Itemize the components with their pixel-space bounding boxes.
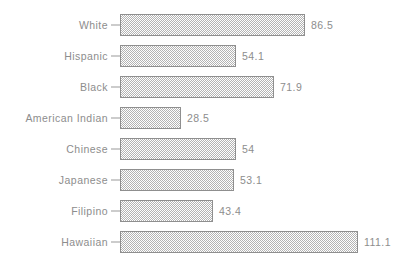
- category-label: Japanese: [59, 174, 108, 185]
- bar-value-label: 111.1: [364, 236, 391, 247]
- axis-tick: [111, 86, 120, 87]
- bar: [120, 231, 358, 253]
- bar: [120, 45, 236, 67]
- category-label: Chinese: [66, 143, 108, 154]
- axis-tick: [111, 241, 120, 242]
- bar-row: Chinese54: [0, 133, 404, 164]
- axis-tick: [111, 148, 120, 149]
- category-label: American Indian: [25, 112, 108, 123]
- axis-tick: [111, 179, 120, 180]
- bar: [120, 107, 181, 129]
- bar-row: Black71.9: [0, 71, 404, 102]
- bar-value-label: 53.1: [240, 174, 262, 185]
- category-label: Hispanic: [64, 50, 108, 61]
- category-label: Hawaiian: [61, 236, 108, 247]
- bar-row: Hawaiian111.1: [0, 226, 404, 257]
- category-label: White: [79, 19, 108, 30]
- bar-row: White86.5: [0, 9, 404, 40]
- bar-row: Filipino43.4: [0, 195, 404, 226]
- bar: [120, 14, 305, 36]
- axis-tick: [111, 117, 120, 118]
- axis-tick: [111, 55, 120, 56]
- bar-value-label: 54: [242, 143, 255, 154]
- plot-area: White86.5Hispanic54.1Black71.9American I…: [0, 0, 404, 271]
- bar: [120, 138, 236, 160]
- bar-row: American Indian28.5: [0, 102, 404, 133]
- axis-tick: [111, 24, 120, 25]
- bar: [120, 200, 213, 222]
- bar-value-label: 54.1: [242, 50, 264, 61]
- bar-value-label: 86.5: [311, 19, 333, 30]
- bar-value-label: 43.4: [219, 205, 241, 216]
- bar: [120, 169, 234, 191]
- bar: [120, 76, 274, 98]
- axis-tick: [111, 210, 120, 211]
- category-label: Black: [80, 81, 108, 92]
- bar-value-label: 71.9: [280, 81, 302, 92]
- bar-row: Japanese53.1: [0, 164, 404, 195]
- bar-row: Hispanic54.1: [0, 40, 404, 71]
- bar-value-label: 28.5: [187, 112, 209, 123]
- bar-chart: White86.5Hispanic54.1Black71.9American I…: [0, 0, 404, 271]
- category-label: Filipino: [71, 205, 108, 216]
